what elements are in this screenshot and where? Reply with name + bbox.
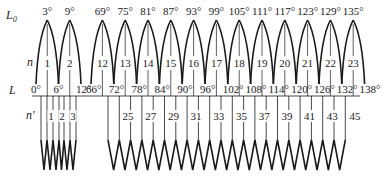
arc-right (308, 20, 319, 84)
bottom-angle-label: 72° (109, 83, 124, 95)
peak-angle-label: 111° (252, 5, 272, 17)
bottom-angle-label: 102° (223, 83, 244, 95)
n-prime-label: 45 (350, 110, 362, 122)
n-prime-label: 25 (123, 110, 135, 122)
arc-left (296, 20, 307, 84)
tooth-zigzag (41, 140, 76, 170)
arc-left (228, 20, 239, 84)
n-prime-label: 27 (145, 110, 157, 122)
arc-right (216, 20, 227, 84)
n-prime-label: 37 (259, 110, 271, 122)
peak-angle-label: 87° (163, 5, 178, 17)
peak-angle-label: 117° (275, 5, 296, 17)
lower-labels: 1232527293133353739414345 (48, 110, 363, 122)
arc-right (102, 20, 113, 84)
peak-angle-label: 123° (297, 5, 318, 17)
n-prime-label: 41 (304, 110, 315, 122)
bottom-angle-label: 78° (132, 83, 147, 95)
row-label-l: L (8, 83, 16, 97)
n-label: 18 (234, 57, 246, 69)
arc-right (262, 20, 273, 84)
bottom-angle-label: 6° (54, 83, 64, 95)
peak-angle-label: 129° (320, 5, 341, 17)
peak-angle-label: 3° (42, 5, 52, 17)
phase-diagram: L0 n L n′ 0°6°12°3°19°266°72°78°84°90°96… (0, 0, 387, 185)
bottom-angle-label: 66° (86, 83, 101, 95)
arc-left (342, 20, 353, 84)
n-prime-label: 35 (236, 110, 248, 122)
arc-left (205, 20, 216, 84)
bottom-angle-label: 108° (246, 83, 267, 95)
n-prime-label: 31 (191, 110, 202, 122)
arc-left (36, 20, 47, 84)
arc-right (194, 20, 205, 84)
bottom-angle-label: 84° (154, 83, 169, 95)
bottom-angle-label: 0° (31, 83, 41, 95)
bottom-angle-label: 138° (360, 83, 381, 95)
peak-angle-label: 81° (140, 5, 155, 17)
arc-right (239, 20, 250, 84)
arc-left (251, 20, 262, 84)
n-prime-label: 2 (59, 110, 65, 122)
row-label-l0: L0 (5, 8, 17, 24)
tooth-zigzag (108, 140, 345, 170)
peak-angle-label: 105° (229, 5, 250, 17)
n-label: 1 (45, 57, 51, 69)
arc-left (182, 20, 193, 84)
row-label-n-prime: n′ (26, 108, 35, 122)
peak-angle-label: 99° (209, 5, 224, 17)
bottom-angle-label: 120° (291, 83, 312, 95)
n-label: 15 (165, 57, 177, 69)
arc-left (91, 20, 102, 84)
row-label-n: n (27, 55, 33, 69)
peak-angle-label: 93° (186, 5, 201, 17)
n-label: 19 (257, 57, 269, 69)
upper-arcs (36, 20, 365, 84)
peak-angle-label: 135° (343, 5, 364, 17)
bottom-angle-label: 96° (200, 83, 215, 95)
n-label: 20 (279, 57, 291, 69)
lower-teeth (41, 140, 345, 170)
n-label: 12 (97, 57, 108, 69)
arc-left (273, 20, 284, 84)
n-label: 21 (302, 57, 313, 69)
n-label: 2 (67, 57, 73, 69)
arc-right (285, 20, 296, 84)
n-prime-label: 43 (327, 110, 339, 122)
arc-left (159, 20, 170, 84)
bottom-angle-label: 114° (268, 83, 289, 95)
n-prime-label: 3 (70, 110, 76, 122)
arc-right (353, 20, 364, 84)
peak-angle-label: 69° (95, 5, 110, 17)
arc-left (59, 20, 70, 84)
n-label: 17 (211, 57, 223, 69)
arc-left (137, 20, 148, 84)
n-label: 16 (188, 57, 200, 69)
n-label: 14 (143, 57, 155, 69)
bottom-angle-label: 132° (337, 83, 358, 95)
n-label: 23 (348, 57, 360, 69)
peak-angle-label: 9° (65, 5, 75, 17)
arc-right (330, 20, 341, 84)
arc-right (148, 20, 159, 84)
n-prime-label: 33 (213, 110, 225, 122)
n-label: 13 (120, 57, 132, 69)
peak-angle-label: 75° (117, 5, 132, 17)
arc-right (70, 20, 81, 84)
arc-left (114, 20, 125, 84)
bottom-angle-label: 126° (314, 83, 335, 95)
arc-right (171, 20, 182, 84)
n-label: 22 (325, 57, 336, 69)
arc-right (125, 20, 136, 84)
arc-left (319, 20, 330, 84)
bottom-angle-label: 90° (177, 83, 192, 95)
n-prime-label: 39 (281, 110, 293, 122)
n-prime-label: 1 (48, 110, 54, 122)
n-prime-label: 29 (168, 110, 180, 122)
arc-right (47, 20, 58, 84)
